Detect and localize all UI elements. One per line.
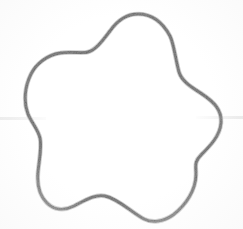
rounded-star-outline: [25, 14, 221, 221]
rounded-star-figure: [0, 0, 243, 229]
image-canvas: [0, 0, 243, 229]
